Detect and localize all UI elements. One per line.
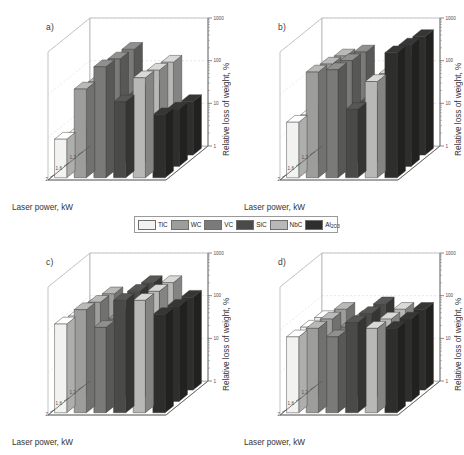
panel-d-xaxis-title: Laser power, kW [244, 438, 305, 447]
svg-text:1.6: 1.6 [56, 401, 63, 406]
bar-NbC [133, 294, 154, 413]
panel-d-yaxis-title: Relative loss of weight, % [454, 271, 463, 391]
bar-WC [74, 82, 95, 178]
legend-swatch [171, 220, 189, 230]
bar-SiC [346, 316, 367, 413]
svg-text:1.2: 1.2 [302, 390, 309, 395]
bar-VC [326, 63, 347, 178]
panel-a-xaxis-title: Laser power, kW [12, 203, 73, 212]
bar-NbC [365, 322, 386, 413]
panel-a-yaxis-title: Relative loss of weight, % [222, 36, 231, 156]
svg-text:1.6: 1.6 [288, 166, 295, 171]
legend-label: TiC [158, 221, 168, 228]
svg-text:1000: 1000 [446, 251, 457, 256]
svg-text:100: 100 [446, 58, 454, 63]
svg-text:1.2: 1.2 [302, 155, 309, 160]
legend-label: WC [191, 221, 202, 228]
bar-VC [326, 330, 347, 413]
legend-entry: WC [171, 220, 202, 230]
svg-text:1.6: 1.6 [288, 401, 295, 406]
panel-a-plot: 21.61.21101001000 [0, 8, 232, 218]
bar-WC [306, 65, 327, 177]
legend-swatch [204, 220, 222, 230]
bar-SiC [114, 95, 135, 178]
bar-TiC [55, 317, 76, 413]
svg-text:100: 100 [214, 293, 222, 298]
legend-entry: SiC [236, 220, 266, 230]
bar-Al2O3 [153, 308, 174, 413]
panel-b-yaxis-title: Relative loss of weight, % [454, 36, 463, 156]
bar-WC [306, 322, 327, 413]
bar-Al2O3 [385, 46, 406, 178]
legend-label: SiC [256, 221, 266, 228]
svg-text:1.2: 1.2 [70, 390, 77, 395]
svg-text:100: 100 [214, 58, 222, 63]
bar-WC [74, 303, 95, 413]
bar-Al2O3 [153, 108, 174, 178]
panel-c-plot: 21.61.21101001000 [0, 243, 232, 453]
bar-NbC [133, 71, 154, 178]
legend-label: NbC [290, 221, 303, 228]
svg-text:10: 10 [214, 336, 220, 341]
svg-text:10: 10 [214, 101, 220, 106]
legend-entry: TiC [138, 220, 168, 230]
svg-text:10: 10 [446, 336, 452, 341]
panel-a: a) 21.61.21101001000 Laser power, kW Rel… [0, 8, 232, 218]
legend-entry: Al2O3 [305, 220, 339, 230]
svg-text:1000: 1000 [214, 16, 225, 21]
panel-b-xaxis-title: Laser power, kW [244, 203, 305, 212]
legend-swatch [236, 220, 254, 230]
legend-swatch [270, 220, 288, 230]
legend: TiCWCVCSiCNbCAl2O3 [134, 216, 338, 233]
svg-text:1: 1 [214, 379, 217, 384]
panel-b: b) 21.61.21101001000 Laser power, kW Rel… [232, 8, 464, 218]
panel-d: d) 21.61.21101001000 Laser power, kW Rel… [232, 243, 464, 453]
bar-Al2O3 [385, 322, 406, 413]
bar-VC [94, 60, 115, 178]
svg-text:1.6: 1.6 [56, 166, 63, 171]
panel-c: c) 21.61.21101001000 Laser power, kW Rel… [0, 243, 232, 453]
svg-text:1000: 1000 [214, 251, 225, 256]
bar-VC [94, 321, 115, 413]
legend-swatch [305, 220, 323, 230]
svg-text:1: 1 [446, 379, 449, 384]
bar-SiC [346, 103, 367, 178]
legend-entry: VC [204, 220, 233, 230]
legend-label: Al2O3 [325, 221, 339, 228]
legend-label: VC [224, 221, 233, 228]
panel-b-plot: 21.61.21101001000 [232, 8, 464, 218]
svg-text:100: 100 [446, 293, 454, 298]
panel-c-xaxis-title: Laser power, kW [12, 438, 73, 447]
figure-four-panel-bar-charts: a) 21.61.21101001000 Laser power, kW Rel… [0, 0, 464, 455]
svg-text:10: 10 [446, 101, 452, 106]
bar-NbC [365, 75, 386, 178]
svg-text:1: 1 [214, 144, 217, 149]
bar-SiC [114, 294, 135, 413]
panel-c-yaxis-title: Relative loss of weight, % [222, 271, 231, 391]
panel-d-plot: 21.61.21101001000 [232, 243, 464, 453]
svg-text:1: 1 [446, 144, 449, 149]
legend-entry: NbC [270, 220, 303, 230]
svg-text:1000: 1000 [446, 16, 457, 21]
svg-text:1.2: 1.2 [70, 155, 77, 160]
legend-swatch [138, 220, 156, 230]
